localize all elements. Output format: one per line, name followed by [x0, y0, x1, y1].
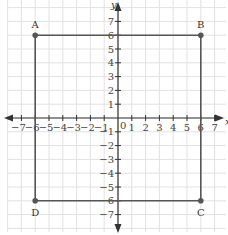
x-tick-label: 7	[211, 122, 217, 133]
y-tick-label: 7	[108, 16, 114, 27]
y-tick-label: 1	[108, 99, 114, 110]
point-b	[198, 32, 204, 38]
x-axis-label: x	[225, 116, 228, 127]
x-tick-label: 5	[184, 122, 190, 133]
y-axis-label: y	[110, 0, 117, 10]
point-label-a: A	[31, 19, 40, 30]
y-tick-label: 5	[108, 44, 114, 55]
y-tick-label: 3	[108, 71, 114, 82]
x-tick-label: −6	[25, 122, 40, 133]
point-label-b: B	[197, 19, 204, 30]
y-tick-label: −4	[99, 168, 114, 179]
x-axis-right-arrow-icon	[215, 115, 224, 122]
y-tick-label: −7	[99, 209, 114, 220]
x-axis-left-arrow-icon	[4, 115, 13, 122]
y-tick-label: 4	[108, 57, 114, 68]
x-tick-label: 3	[156, 122, 162, 133]
origin-label: 0	[120, 120, 126, 131]
y-tick-label: −3	[99, 154, 114, 165]
point-label-d: D	[31, 207, 39, 218]
y-tick-label: −1	[99, 126, 114, 137]
point-a	[32, 32, 38, 38]
x-tick-label: −5	[39, 122, 54, 133]
coordinate-plane: xy −7−6−5−4−3−2−112345677654321−1−2−3−4−…	[0, 0, 228, 235]
x-tick-label: −4	[52, 122, 67, 133]
point-c	[198, 198, 204, 204]
x-tick-label: 2	[142, 122, 148, 133]
point-label-c: C	[197, 207, 205, 218]
y-tick-label: −5	[99, 182, 114, 193]
x-tick-label: −2	[80, 122, 95, 133]
x-tick-label: 4	[170, 122, 176, 133]
y-tick-label: 2	[108, 85, 114, 96]
x-tick-label: −7	[11, 122, 26, 133]
point-d	[32, 198, 38, 204]
x-tick-label: 1	[129, 122, 135, 133]
y-tick-label: −2	[99, 140, 114, 151]
x-tick-label: −3	[66, 122, 81, 133]
